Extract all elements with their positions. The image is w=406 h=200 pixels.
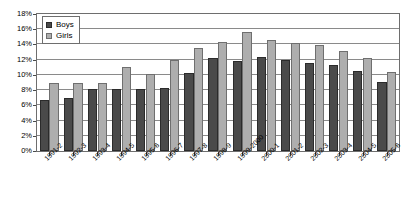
bar-girls [49,83,58,152]
bar-group [302,14,326,151]
bar-group [351,14,375,151]
bar-boys [208,58,217,151]
bar-group [85,14,109,151]
bar-girls [194,48,203,152]
bar-girls [73,83,82,152]
bar-boys [353,71,362,151]
y-tick-label: 10% [17,71,32,79]
bar-girls [146,74,155,151]
legend-swatch-girls-icon [46,33,52,39]
y-tick-label: 16% [17,25,32,33]
bar-girls [339,51,348,151]
bar-boys [160,88,169,151]
y-tick-label: 18% [17,10,32,18]
bar-group [278,14,302,151]
y-tick-label: 4% [21,117,32,125]
bar-boys [329,65,338,151]
legend-swatch-boys-icon [46,22,52,28]
bar-boys [233,61,242,151]
bar-group [158,14,182,151]
y-tick-label: 6% [21,101,32,109]
legend-item-girls: Girls [46,30,74,41]
bar-chart: 0%2%4%6%8%10%12%14%16%18% 1991-21992-319… [0,0,406,200]
bar-girls [315,45,324,151]
bar-group [375,14,399,151]
y-tick-label: 2% [21,132,32,140]
bar-group [327,14,351,151]
bar-girls [291,43,300,151]
bar-boys [281,60,290,151]
legend-item-boys: Boys [46,19,74,30]
y-tick-label: 0% [21,147,32,155]
bar-girls [387,72,396,151]
bar-boys [136,89,145,151]
bar-boys [112,89,121,151]
bar-girls [170,60,179,151]
bar-girls [122,67,131,151]
bar-girls [267,40,276,151]
y-tick-label: 8% [21,86,32,94]
y-tick-label: 14% [17,40,32,48]
y-axis: 0%2%4%6%8%10%12%14%16%18% [0,0,36,160]
bar-group [254,14,278,151]
bar-boys [64,98,73,151]
bar-girls [218,42,227,151]
bars-layer [37,14,399,151]
bar-boys [88,89,97,151]
bar-group [109,14,133,151]
bar-group [182,14,206,151]
bar-boys [305,63,314,151]
bar-group [206,14,230,151]
bar-boys [377,82,386,151]
legend-label-boys: Boys [56,20,74,29]
bar-girls [363,58,372,151]
bar-boys [40,100,49,151]
bar-boys [184,73,193,151]
bar-girls [242,32,251,151]
legend: Boys Girls [42,16,80,44]
y-tick-label: 12% [17,56,32,64]
legend-label-girls: Girls [56,31,72,40]
bar-group [230,14,254,151]
bar-group [134,14,158,151]
